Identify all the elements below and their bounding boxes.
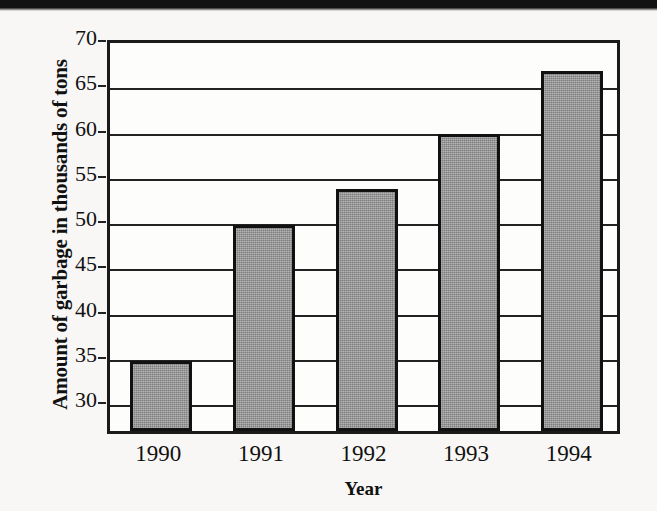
- y-tick-mark-45: [98, 266, 106, 268]
- x-tick-label-1991: 1991: [211, 441, 311, 467]
- x-tick-label-1992: 1992: [314, 441, 414, 467]
- y-tick-label-35: 35: [45, 344, 97, 366]
- bar-1994: [541, 71, 603, 431]
- y-tick-mark-40: [98, 312, 106, 314]
- scan-artifact-taper: [0, 8, 657, 11]
- y-tick-mark-35: [98, 357, 106, 359]
- y-tick-mark-60: [98, 131, 106, 133]
- bar-chart-figure: Amount of garbage in thousands of tons 3…: [0, 0, 657, 511]
- y-tick-mark-70: [98, 40, 106, 42]
- y-tick-mark-55: [98, 176, 106, 178]
- x-tick-label-1993: 1993: [416, 441, 516, 467]
- x-tick-label-1990: 1990: [108, 441, 208, 467]
- y-tick-label-55: 55: [45, 163, 97, 185]
- scan-artifact-band: [0, 0, 657, 8]
- y-tick-label-30: 30: [45, 389, 97, 411]
- y-tick-mark-50: [98, 221, 106, 223]
- y-tick-label-60: 60: [45, 118, 97, 140]
- y-tick-label-40: 40: [45, 299, 97, 321]
- x-axis-title: Year: [107, 478, 620, 500]
- bar-1993: [438, 134, 500, 431]
- bar-1990: [130, 361, 192, 431]
- x-tick-label-1994: 1994: [519, 441, 619, 467]
- y-tick-mark-30: [98, 402, 106, 404]
- plot-area: [107, 40, 620, 434]
- bar-1991: [233, 225, 295, 431]
- y-tick-mark-65: [98, 85, 106, 87]
- y-tick-label-65: 65: [45, 72, 97, 94]
- bar-1992: [336, 189, 398, 431]
- y-tick-label-45: 45: [45, 253, 97, 275]
- y-tick-label-70: 70: [45, 27, 97, 49]
- y-tick-label-50: 50: [45, 208, 97, 230]
